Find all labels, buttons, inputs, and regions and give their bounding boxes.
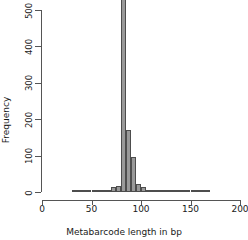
x-axis-tick-label: 100 bbox=[132, 205, 149, 214]
y-axis-tick bbox=[35, 156, 41, 157]
y-axis-tick-label: 200 bbox=[18, 119, 33, 120]
y-axis-tick-label: 100 bbox=[18, 156, 33, 157]
y-axis-tick-label: 500 bbox=[18, 10, 33, 11]
y-axis-tick bbox=[35, 119, 41, 120]
y-axis-tick bbox=[35, 192, 41, 193]
x-axis-tick-label: 200 bbox=[231, 205, 248, 214]
x-axis-tick-label: 50 bbox=[86, 205, 97, 214]
x-axis-tick-label: 0 bbox=[39, 205, 45, 214]
plot-area: 0100200300400500 050100150200 Frequency … bbox=[0, 0, 248, 240]
y-axis-tick-label: 0 bbox=[18, 192, 33, 193]
x-axis-title: Metabarcode length in bp bbox=[0, 228, 248, 237]
y-axis-tick bbox=[35, 10, 41, 11]
x-axis-tick-label: 150 bbox=[182, 205, 199, 214]
y-axis-tick bbox=[35, 46, 41, 47]
histogram-figure: 0100200300400500 050100150200 Frequency … bbox=[0, 0, 248, 240]
y-axis-tick-label: 300 bbox=[18, 83, 33, 84]
y-axis-tick-label: 400 bbox=[18, 46, 33, 47]
histogram-bar bbox=[205, 190, 210, 192]
y-axis-tick bbox=[35, 83, 41, 84]
histogram-bars bbox=[0, 0, 248, 201]
y-axis-title: Frequency bbox=[2, 97, 11, 144]
y-axis-line bbox=[41, 10, 42, 192]
